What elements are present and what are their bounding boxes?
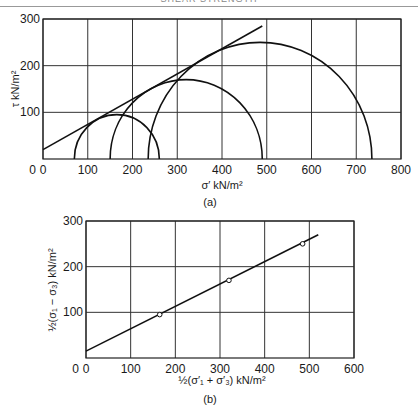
grid	[86, 221, 354, 358]
x-tick-label: 100	[121, 362, 141, 376]
fit-line	[86, 235, 318, 351]
chart-b-stress-path: 01002003004005006001002003000½(σ′₁ + σ′₃…	[0, 0, 418, 413]
x-tick-label: 500	[299, 362, 319, 376]
x-axis-label: ½(σ′₁ + σ′₃) kN/m²	[178, 374, 266, 386]
y-tick-label: 200	[63, 260, 83, 274]
caption-b: (b)	[203, 393, 216, 405]
y-tick-label: 100	[63, 305, 83, 319]
x-tick-label: 0	[83, 362, 90, 376]
y-tick-label: 300	[63, 214, 83, 228]
data-point	[227, 278, 232, 283]
data-point	[300, 242, 305, 247]
data-point	[157, 312, 162, 317]
origin-label: 0	[72, 362, 79, 376]
y-axis-label: ½(σ₁ − σ₃) kN/m²	[46, 248, 58, 332]
x-tick-label: 600	[344, 362, 364, 376]
